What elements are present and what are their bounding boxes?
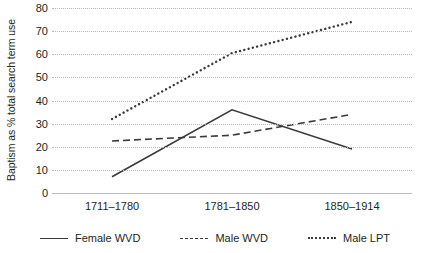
gridline-50 [52, 77, 412, 78]
plot-area [52, 8, 412, 193]
y-tick-label-30: 30 [36, 118, 48, 130]
y-tick-label-0: 0 [42, 187, 48, 199]
y-tick-label-80: 80 [36, 2, 48, 14]
legend-label: Male LPT [343, 232, 390, 244]
x-tick-label-0: 1711–1780 [52, 197, 172, 217]
line-chart: Baptism as % total search term use 01020… [0, 0, 421, 253]
y-tick-label-50: 50 [36, 71, 48, 83]
legend-label: Female WVD [75, 232, 140, 244]
y-tick-label-20: 20 [36, 141, 48, 153]
legend-item-female-wvd[interactable]: Female WVD [40, 232, 140, 244]
x-tick-label-2: 1850–1914 [292, 197, 412, 217]
y-tick-label-60: 60 [36, 48, 48, 60]
gridline-30 [52, 124, 412, 125]
y-axis-tick-labels: 01020304050607080 [18, 0, 48, 201]
legend-swatch-dashed-icon [180, 238, 208, 239]
y-tick-label-70: 70 [36, 25, 48, 37]
legend-label: Male WVD [215, 232, 268, 244]
gridline-60 [52, 54, 412, 55]
legend-item-male-wvd[interactable]: Male WVD [180, 232, 268, 244]
gridline-10 [52, 170, 412, 171]
x-axis-tick-labels: 1711–17801781–18501850–1914 [52, 197, 412, 217]
legend-item-male-lpt[interactable]: Male LPT [308, 232, 390, 244]
y-axis-title-text: Baptism as % total search term use [5, 19, 17, 181]
x-axis-line [52, 193, 412, 194]
gridline-40 [52, 101, 412, 102]
y-tick-label-10: 10 [36, 164, 48, 176]
gridline-70 [52, 31, 412, 32]
x-tick-label-1: 1781–1850 [172, 197, 292, 217]
chart-legend: Female WVDMale WVDMale LPT [40, 228, 400, 248]
gridline-20 [52, 147, 412, 148]
y-tick-label-40: 40 [36, 95, 48, 107]
series-line-female-wvd [112, 110, 352, 177]
legend-swatch-dotted-icon [308, 237, 336, 239]
series-line-male-lpt [112, 22, 352, 119]
legend-swatch-solid-icon [40, 238, 68, 239]
gridline-80 [52, 8, 412, 9]
